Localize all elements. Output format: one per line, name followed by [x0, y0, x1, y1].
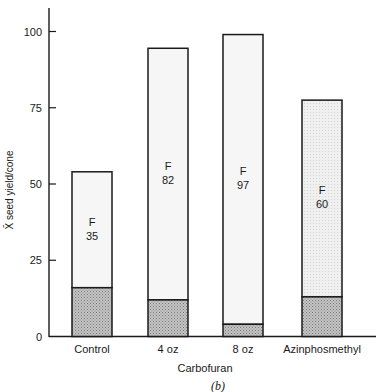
category-labels: Control4 oz8 ozAzinphosmethyl: [74, 343, 361, 355]
bar-annotation-value: 97: [237, 179, 249, 191]
category-label: Control: [74, 343, 109, 355]
figure-caption: (b): [211, 379, 225, 392]
y-tick-label: 25: [30, 254, 42, 266]
y-tick-label: 0: [36, 331, 42, 343]
bar-control: F35: [72, 172, 112, 337]
bar-annotation-value: 60: [316, 198, 328, 210]
y-axis-label: X̄ seed yield/cone: [3, 150, 15, 229]
bar-annotation-letter: F: [240, 165, 247, 177]
bar-lower-segment: [148, 300, 188, 337]
bar-annotation-letter: F: [165, 160, 172, 172]
y-tick-label: 75: [30, 102, 42, 114]
y-tick-label: 50: [30, 178, 42, 190]
bar-lower-segment: [223, 324, 263, 336]
bar-annotation-letter: F: [319, 184, 326, 196]
bar-azinphosmethyl: F60: [302, 100, 342, 336]
bar-annotation-value: 82: [162, 174, 174, 186]
y-tick-label: 100: [24, 26, 42, 38]
category-label: 8 oz: [233, 343, 254, 355]
category-label: Azinphosmethyl: [283, 343, 361, 355]
bar-annotation-value: 35: [86, 230, 98, 242]
bar-annotation-letter: F: [89, 216, 96, 228]
bar-8-oz: F97: [223, 35, 263, 337]
bar-lower-segment: [72, 288, 112, 337]
y-ticks: 0255075100: [24, 26, 56, 343]
category-label: 4 oz: [158, 343, 179, 355]
bar-4-oz: F82: [148, 48, 188, 336]
x-axis-label: Carbofuran: [177, 362, 232, 374]
bars: F35F82F97F60: [72, 35, 342, 337]
bar-lower-segment: [302, 297, 342, 337]
chart: 0255075100 X̄ seed yield/cone F35F82F97F…: [0, 0, 387, 392]
